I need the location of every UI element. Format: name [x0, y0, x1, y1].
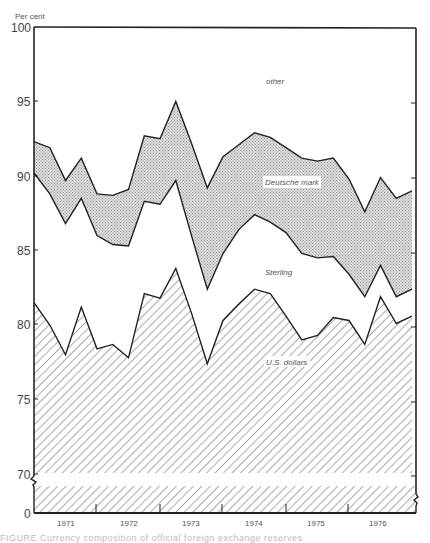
series-label-other: other — [266, 77, 285, 86]
y-tick-label-0: 0 — [24, 507, 31, 521]
series-label-deutsche-mark: Deutsche mark — [265, 178, 320, 187]
y-tick-label-75: 75 — [17, 393, 31, 407]
y-tick-label-90: 90 — [17, 170, 31, 184]
series-label-us-dollars: U.S. dollars — [266, 358, 307, 367]
y-axis-unit-label: Per cent — [15, 12, 46, 21]
area-deutsche-mark — [34, 102, 412, 297]
x-tick-label-1973: 1973 — [182, 519, 200, 528]
top-axis — [34, 27, 416, 28]
x-tick-label-1972: 1972 — [120, 519, 138, 528]
series-label-sterling: Sterling — [265, 268, 293, 277]
y-tick-label-95: 95 — [17, 95, 31, 109]
y-tick-label-70: 70 — [17, 468, 31, 482]
axis-break-band — [34, 473, 417, 486]
y-tick-label-80: 80 — [17, 318, 31, 332]
x-tick-label-1971: 1971 — [57, 519, 75, 528]
x-tick-label-1975: 1975 — [307, 519, 325, 528]
figure-caption: FIGURE Currency composition of official … — [0, 533, 430, 543]
area-us-dollars-below-break — [34, 486, 415, 513]
x-tick-label-1976: 1976 — [369, 519, 387, 528]
area-us-dollars — [34, 268, 412, 486]
x-tick-label-1974: 1974 — [245, 519, 263, 528]
y-tick-label-85: 85 — [17, 244, 31, 258]
y-tick-label-100: 100 — [11, 21, 31, 35]
stacked-area-chart: Per cent 100 95 90 85 80 75 70 0 1971 19… — [0, 0, 430, 543]
